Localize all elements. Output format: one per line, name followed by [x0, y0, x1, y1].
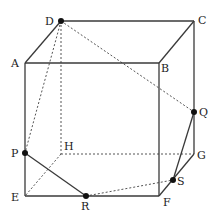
label-Q: Q: [199, 106, 208, 119]
label-S: S: [177, 175, 185, 188]
label-B: B: [161, 62, 169, 75]
point-P: [22, 150, 28, 156]
vertex-labels: D C A B Q H G P S E F R: [10, 14, 208, 213]
segment-DP: [25, 21, 61, 153]
label-C: C: [198, 14, 206, 27]
visible-edges: [25, 21, 194, 196]
cube-diagram: D C A B Q H G P S E F R: [0, 0, 219, 218]
segment-RS: [86, 180, 173, 196]
marked-points: [22, 18, 197, 199]
label-F: F: [163, 196, 171, 209]
label-R: R: [81, 200, 90, 213]
point-R: [83, 193, 89, 199]
label-E: E: [11, 191, 19, 204]
hidden-edges: [25, 21, 194, 196]
label-G: G: [197, 149, 206, 162]
label-A: A: [10, 57, 20, 70]
segment-QS: [173, 112, 194, 180]
label-H: H: [64, 140, 74, 153]
point-D: [58, 18, 64, 24]
point-S: [170, 177, 176, 183]
segment-DQ: [61, 21, 194, 112]
edge-BC: [159, 21, 194, 63]
segment-PR: [25, 153, 86, 196]
point-Q: [191, 109, 197, 115]
label-D: D: [45, 15, 54, 28]
label-P: P: [11, 147, 19, 160]
